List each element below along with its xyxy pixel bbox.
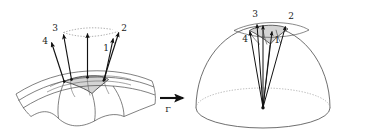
saddle-lower-outline: [31, 104, 155, 126]
left-label-3: 3: [52, 23, 58, 33]
equator-front: [196, 108, 330, 128]
left-panel-saddle: 3 2 4 1: [16, 23, 155, 126]
right-panel-hemisphere: 3 2 4 1: [196, 9, 330, 128]
mapping-arrow-group: Γ: [160, 98, 183, 114]
left-label-1: 1: [103, 43, 109, 53]
mapping-arrow-label: Γ: [165, 105, 171, 114]
left-vector-2: [104, 33, 119, 81]
left-label-2: 2: [121, 23, 127, 33]
left-label-4: 4: [42, 36, 48, 46]
right-label-2: 2: [288, 11, 294, 21]
left-vectors: [52, 33, 119, 82]
left-vector-3: [64, 35, 72, 80]
right-shaded-patch: [250, 25, 289, 44]
right-label-1: 1: [274, 35, 280, 45]
right-label-4: 4: [242, 34, 248, 44]
right-label-3: 3: [252, 9, 258, 19]
figure-canvas: 3 2 4 1 Γ: [0, 0, 379, 137]
right-vector-extra: [263, 45, 270, 108]
dome-centre-point: [261, 106, 264, 109]
gauss-map-figure: 3 2 4 1 Γ: [0, 0, 379, 137]
tip-dotted-arcs: [64, 28, 119, 37]
right-vector-4: [250, 32, 263, 108]
